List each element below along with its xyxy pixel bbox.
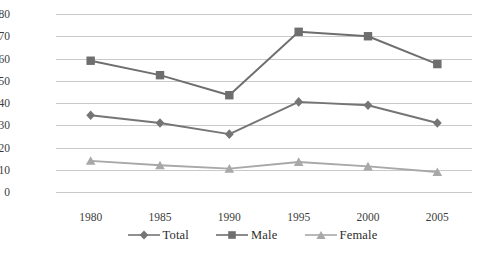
- y-axis-tick-label: 30: [0, 120, 10, 132]
- y-axis-tick-label: 70: [0, 31, 10, 43]
- legend-item-female[interactable]: Female: [304, 228, 378, 242]
- legend-label-total: Total: [163, 229, 190, 242]
- y-axis-tick-label: 80: [0, 9, 10, 21]
- x-axis-tick-label: 2000: [338, 212, 398, 224]
- x-axis-tick-label: 2005: [407, 212, 467, 224]
- y-axis-tick-label: 60: [0, 54, 10, 66]
- legend: Total Male Female: [0, 228, 504, 242]
- legend-label-female: Female: [340, 229, 378, 242]
- line-chart: 80 70 60 50 40 30 20 10 0 1980 1985 1990…: [0, 0, 504, 256]
- x-axis-tick-label: 1980: [61, 212, 121, 224]
- square-marker-icon: [86, 57, 94, 65]
- series-line: [91, 32, 438, 95]
- square-marker-icon: [433, 60, 441, 68]
- x-axis-tick-label: 1995: [269, 212, 329, 224]
- diamond-marker-icon: [156, 118, 165, 128]
- gridline: [56, 192, 472, 193]
- diamond-marker-icon: [433, 118, 442, 128]
- series-layer: [56, 14, 472, 192]
- series-total: [86, 97, 441, 139]
- legend-item-male[interactable]: Male: [215, 228, 277, 242]
- legend-label-male: Male: [251, 229, 277, 242]
- x-axis-tick-label: 1990: [199, 212, 259, 224]
- square-marker-icon: [294, 28, 302, 36]
- y-axis-tick-label: 20: [0, 143, 10, 155]
- diamond-marker-icon: [225, 129, 234, 139]
- square-marker-icon: [225, 91, 233, 99]
- y-axis-tick-label: 50: [0, 76, 10, 88]
- x-axis-tick-label: 1985: [130, 212, 190, 224]
- square-marker-icon: [215, 228, 249, 242]
- diamond-marker-icon: [364, 100, 373, 110]
- diamond-marker-icon: [294, 97, 303, 107]
- series-female: [86, 156, 442, 176]
- legend-item-total[interactable]: Total: [127, 228, 190, 242]
- y-axis-tick-label: 10: [0, 165, 10, 177]
- square-marker-icon: [364, 32, 372, 40]
- diamond-marker-icon: [127, 228, 161, 242]
- series-line: [91, 102, 438, 134]
- series-male: [86, 28, 441, 100]
- y-axis-tick-label: 0: [0, 187, 10, 199]
- triangle-marker-icon: [304, 228, 338, 242]
- diamond-marker-icon: [86, 110, 95, 120]
- square-marker-icon: [156, 71, 164, 79]
- series-line: [91, 161, 438, 172]
- y-axis-tick-label: 40: [0, 98, 10, 110]
